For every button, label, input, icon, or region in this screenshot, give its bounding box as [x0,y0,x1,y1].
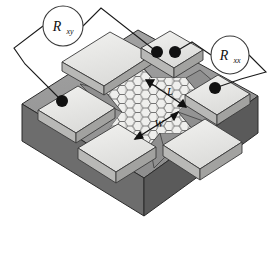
dot-mid-right[interactable] [209,82,221,94]
dot-mid-left[interactable] [56,95,68,107]
dot-top-right-b[interactable] [169,46,181,58]
meter-r-xy-subscript: xy [65,27,74,36]
meter-r-xx[interactable]: R xx [211,36,249,74]
meter-r-xy[interactable]: R xy [43,6,83,46]
meter-r-xy-circle [43,6,83,46]
figure-canvas: L W R xy R xx [0,0,280,264]
width-label: W [154,117,164,129]
meter-r-xx-symbol: R [219,48,229,63]
meter-r-xy-symbol: R [52,19,62,34]
dot-top-right-a[interactable] [151,46,163,58]
device-schematic-svg: L W R xy R xx [0,0,280,264]
meter-r-xx-circle [211,36,249,74]
length-label: L [166,85,173,97]
meter-r-xx-subscript: xx [232,56,241,65]
